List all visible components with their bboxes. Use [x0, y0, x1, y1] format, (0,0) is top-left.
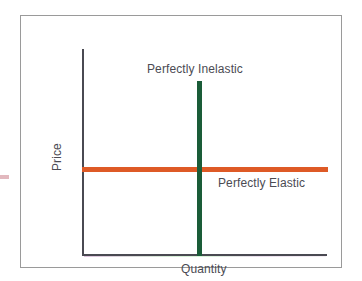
figure-frame: Perfectly Inelastic Perfectly Elastic Pr…: [20, 15, 342, 268]
annotation-perfectly-inelastic: Perfectly Inelastic: [147, 62, 243, 76]
x-axis-label: Quantity: [181, 262, 227, 276]
y-axis-label: Price: [50, 143, 64, 171]
series-perfectly-inelastic-line: [197, 81, 202, 256]
annotation-perfectly-elastic: Perfectly Elastic: [218, 176, 305, 190]
y-axis-line: [82, 49, 84, 256]
series-perfectly-elastic-line: [82, 167, 328, 172]
edge-artifact-mark: [0, 175, 9, 179]
chart-canvas: Perfectly Inelastic Perfectly Elastic Pr…: [0, 0, 362, 281]
x-axis-fringe: [84, 256, 326, 257]
